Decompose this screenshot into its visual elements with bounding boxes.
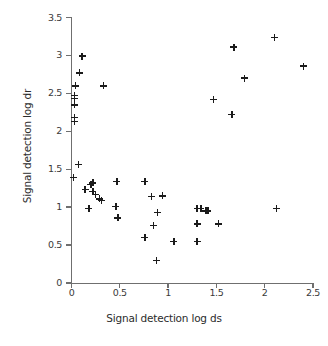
data-point <box>215 220 222 227</box>
x-axis-line <box>71 283 314 284</box>
data-point <box>150 222 157 229</box>
data-point <box>89 179 96 186</box>
data-point <box>79 53 86 60</box>
data-point <box>273 205 280 212</box>
x-tick-label: 1.5 <box>201 287 231 298</box>
data-point <box>300 63 307 70</box>
data-point <box>241 75 248 82</box>
data-point <box>76 69 83 76</box>
data-point <box>112 203 119 210</box>
data-point <box>204 207 211 214</box>
x-tick-label: 0.5 <box>105 287 135 298</box>
data-point <box>210 96 217 103</box>
data-point <box>141 234 148 241</box>
data-point <box>71 101 78 108</box>
data-point <box>98 197 105 204</box>
data-point <box>114 214 121 221</box>
x-tick-label: 1 <box>153 287 183 298</box>
data-point <box>72 82 79 89</box>
y-tick <box>66 169 71 170</box>
data-point <box>153 257 160 264</box>
data-point <box>148 193 155 200</box>
x-tick-label: 2 <box>250 287 280 298</box>
data-point <box>71 118 78 125</box>
y-tick <box>66 17 71 18</box>
y-tick <box>66 206 71 207</box>
x-axis-label: Signal detection log ds <box>0 312 328 324</box>
data-point <box>230 44 237 51</box>
y-tick <box>66 55 71 56</box>
data-point <box>154 209 161 216</box>
y-axis-label: Signal detection log dr <box>21 36 33 256</box>
x-tick-label: 0 <box>57 287 87 298</box>
data-point <box>85 205 92 212</box>
y-tick <box>66 244 71 245</box>
data-point <box>100 82 107 89</box>
data-point <box>194 238 201 245</box>
data-point <box>141 178 148 185</box>
x-tick-label: 2.5 <box>298 287 328 298</box>
y-tick-label: 3.5 <box>22 12 62 23</box>
data-point <box>194 220 201 227</box>
y-tick <box>66 131 71 132</box>
y-axis-line <box>71 17 72 284</box>
data-point <box>228 111 235 118</box>
data-point <box>113 178 120 185</box>
scatter-plot: 00.511.522.533.5 00.511.522.5 Signal det… <box>0 0 328 346</box>
data-point <box>170 238 177 245</box>
data-point <box>75 161 82 168</box>
data-point <box>70 174 77 181</box>
data-point <box>271 34 278 41</box>
data-point <box>159 192 166 199</box>
